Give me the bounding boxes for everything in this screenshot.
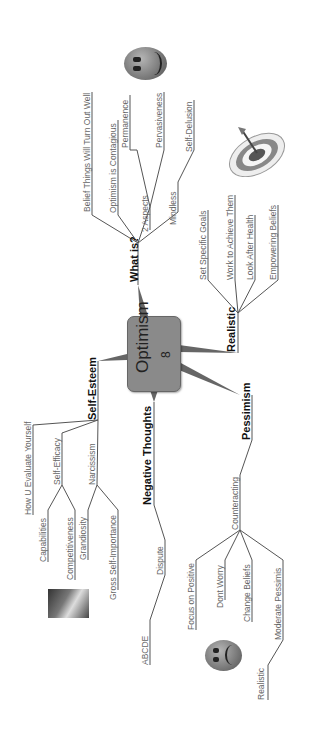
branch-negative-thoughts[interactable]: Negative Thoughts (141, 406, 153, 505)
node-focus-on-positive[interactable]: Focus on Positive (186, 563, 196, 630)
sad-face-icon (205, 640, 242, 671)
branch-what-is[interactable]: What is? (128, 236, 140, 282)
smiley-face-icon (124, 47, 167, 80)
node-look-after-health[interactable]: Look After Health (245, 215, 255, 280)
node-grandiosity[interactable]: Grandiosity (78, 517, 88, 560)
node-dispute[interactable]: Dispute (155, 546, 165, 575)
node-narcissism[interactable]: Narcissism (87, 443, 97, 485)
branch-pessimism[interactable]: Pessimism (240, 383, 252, 440)
central-node-title: Optimism (133, 301, 153, 373)
branch-self-esteem[interactable]: Self-Esteem (86, 357, 98, 420)
mind-map-canvas: Optimism 8 What is? Belief Things Will T… (0, 0, 309, 742)
node-optimism-contagious[interactable]: Optimism is Contagious (108, 123, 118, 213)
node-capabilities[interactable]: Capabilities (38, 518, 48, 562)
node-pervasiveness[interactable]: Pervasiveness (154, 93, 164, 148)
node-dont-worry[interactable]: Dont Worry (215, 565, 225, 608)
branch-realistic[interactable]: Realistic (225, 307, 237, 352)
node-empowering-beliefs[interactable]: Empowering Beliefs (268, 205, 278, 280)
node-self-delusion[interactable]: Self-Delusion (184, 101, 194, 152)
node-gross-self-importance[interactable]: Gross Self-Importance (108, 515, 118, 600)
node-self-efficacy[interactable]: Self-Efficacy (52, 438, 62, 485)
target-dart-icon (222, 125, 292, 177)
node-mindless[interactable]: Mindless (168, 191, 178, 225)
central-node-count: 8 (159, 351, 173, 358)
node-realistic-pessimism[interactable]: Realistic (256, 668, 266, 700)
photo-thumbnail (48, 589, 89, 618)
node-2-aspects[interactable]: 2 Aspects (140, 195, 150, 232)
node-set-specific-goals[interactable]: Set Specific Goals (198, 211, 208, 280)
node-abcde[interactable]: ABCDE (140, 636, 150, 665)
node-belief-things-turn-out-well[interactable]: Belief Things Will Turn Out Well (82, 93, 92, 212)
node-counteracting[interactable]: Counteracting (230, 477, 240, 530)
node-change-beliefs[interactable]: Change Beliefs (242, 564, 252, 622)
node-permanence[interactable]: Permanence (120, 100, 130, 148)
node-competitiveness[interactable]: Competitiveness (65, 517, 75, 580)
node-moderate-pessimis[interactable]: Moderate Pessimis (273, 568, 283, 640)
node-how-u-evaluate-yourself[interactable]: How U Evaluate Yourself (23, 421, 33, 515)
node-work-to-achieve-them[interactable]: Work to Achieve Them (225, 195, 235, 280)
